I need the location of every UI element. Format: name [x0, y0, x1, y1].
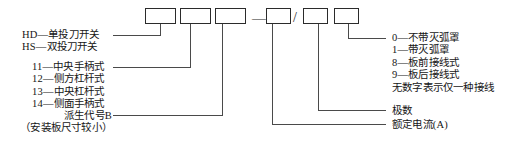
- label-poles: 极数: [392, 105, 412, 117]
- label-derivative-note: （安装板尺寸较小）: [4, 122, 112, 134]
- label-rated-current: 额定电流(A): [392, 119, 448, 131]
- label-wiring-group: 0—不带灭弧罩 1—带灭弧罩 8—板前接线式 9—板后接线式 无数字表示仅一种接…: [392, 32, 494, 94]
- label-wiring-9: 9—板后接线式: [392, 69, 494, 81]
- model-designation-diagram: — / HD—单投刀开关 HS—双投刀开关 11—中央手柄式 12—侧方杠杆式 …: [0, 0, 530, 146]
- label-derivative-code: 派生代号B: [4, 110, 112, 122]
- label-operation-12: 12—侧方杠杆式: [32, 73, 105, 85]
- box-derivative[interactable]: [215, 8, 246, 24]
- slash-separator: /: [293, 11, 297, 25]
- label-operation-13: 13—中央杠杆式: [32, 86, 105, 98]
- box-series[interactable]: [145, 8, 176, 24]
- box-poles[interactable]: [303, 8, 328, 24]
- label-wiring-8: 8—板前接线式: [392, 57, 494, 69]
- label-series-hs: HS—双投刀开关: [22, 41, 99, 53]
- label-operation-group: 11—中央手柄式 12—侧方杠杆式 13—中央杠杆式 14—侧面手柄式: [32, 61, 105, 111]
- box-current[interactable]: [266, 8, 291, 24]
- label-derivative-group: 派生代号B （安装板尺寸较小）: [4, 110, 112, 135]
- label-series-group: HD—单投刀开关 HS—双投刀开关: [22, 29, 99, 54]
- box-design[interactable]: [180, 8, 211, 24]
- label-wiring-1: 1—带灭弧罩: [392, 44, 494, 56]
- label-series-hd: HD—单投刀开关: [22, 29, 99, 41]
- box-wiring[interactable]: [334, 8, 359, 24]
- label-operation-11: 11—中央手柄式: [32, 61, 105, 73]
- dash-separator: —: [252, 12, 266, 26]
- label-operation-14: 14—侧面手柄式: [32, 98, 105, 110]
- label-wiring-0: 0—不带灭弧罩: [392, 32, 494, 44]
- label-wiring-none: 无数字表示仅一种接线: [392, 82, 494, 94]
